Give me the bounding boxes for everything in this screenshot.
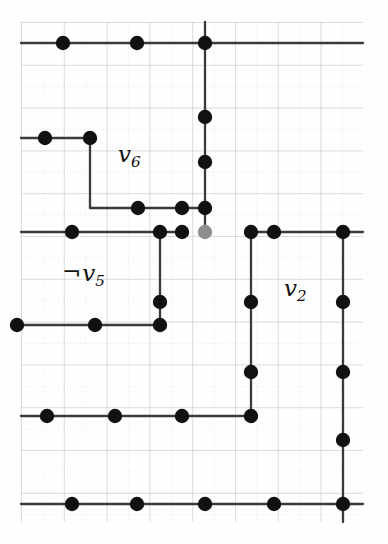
- label-base: v: [118, 141, 131, 167]
- label-v5: ¬v5: [62, 262, 105, 285]
- graph-node: [153, 225, 167, 239]
- graph-node: [175, 409, 189, 423]
- label-v6: v6: [118, 143, 141, 166]
- graph-node: [56, 36, 70, 50]
- graph-node: [336, 497, 350, 511]
- graph-node: [198, 201, 212, 215]
- graph-node: [153, 295, 167, 309]
- graph-node: [131, 201, 145, 215]
- label-subscript: 2: [297, 289, 307, 304]
- figure-canvas: v6¬v5v2: [0, 0, 388, 544]
- graph-node: [175, 225, 189, 239]
- graph-node-faded: [198, 225, 212, 239]
- graph-node: [88, 318, 102, 332]
- graph-node: [198, 155, 212, 169]
- graph-node: [38, 131, 52, 145]
- label-subscript: 5: [95, 274, 105, 289]
- graph-node: [153, 318, 167, 332]
- graph-node: [267, 225, 281, 239]
- graph-node: [244, 365, 258, 379]
- graph-node: [198, 36, 212, 50]
- lattice-graph-svg: [0, 0, 388, 544]
- negation-icon: ¬: [62, 261, 82, 284]
- graph-node: [244, 225, 258, 239]
- label-base: v: [284, 275, 297, 301]
- graph-node: [10, 318, 24, 332]
- graph-node: [244, 295, 258, 309]
- graph-node: [65, 497, 79, 511]
- graph-node: [130, 497, 144, 511]
- graph-node: [336, 225, 350, 239]
- graph-node: [83, 131, 97, 145]
- graph-node: [267, 497, 281, 511]
- graph-node: [40, 409, 54, 423]
- graph-node: [130, 36, 144, 50]
- graph-node: [198, 497, 212, 511]
- label-subscript: 6: [131, 155, 141, 170]
- graph-node: [65, 225, 79, 239]
- graph-node: [336, 295, 350, 309]
- graph-node: [198, 110, 212, 124]
- graph-node: [244, 409, 258, 423]
- graph-node: [336, 365, 350, 379]
- label-base: v: [82, 260, 95, 286]
- graph-node: [336, 433, 350, 447]
- graph-node: [175, 201, 189, 215]
- label-v2: v2: [284, 277, 307, 300]
- graph-node: [108, 409, 122, 423]
